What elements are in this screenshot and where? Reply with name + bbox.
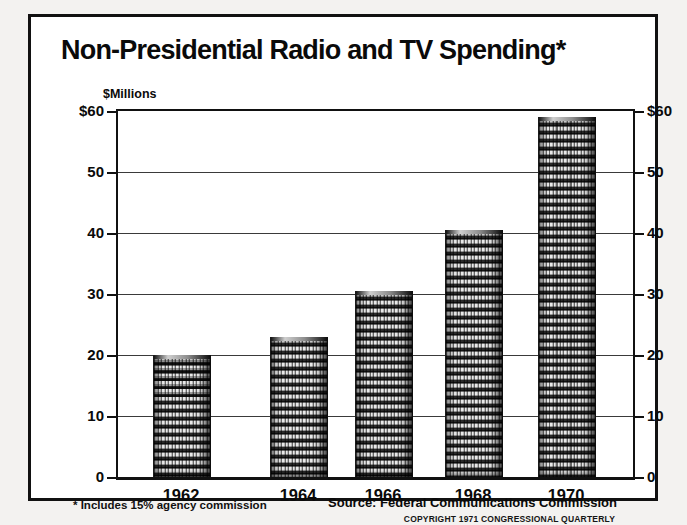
y-axis-tick-label: 10 bbox=[647, 408, 664, 423]
y-axis-tick bbox=[635, 477, 644, 479]
x-axis-label-1964: 1964 bbox=[280, 486, 317, 505]
bar-1962 bbox=[153, 355, 211, 477]
y-axis-unit-label: $Millions bbox=[103, 87, 156, 101]
plot-area: 0010102020303040405050$60$60196219641966… bbox=[116, 109, 635, 480]
y-axis-tick-label: 10 bbox=[87, 408, 104, 423]
y-axis-tick bbox=[107, 477, 116, 479]
y-axis-tick-label: 0 bbox=[96, 469, 104, 484]
y-axis-tick bbox=[635, 111, 644, 113]
y-axis-tick bbox=[635, 294, 644, 296]
title-text: Non-Presidential Radio and TV Spending* bbox=[61, 35, 565, 65]
y-axis-tick bbox=[107, 294, 116, 296]
y-axis-tick bbox=[107, 416, 116, 418]
y-axis-tick bbox=[107, 355, 116, 357]
y-axis-tick bbox=[635, 355, 644, 357]
y-axis-tick-label: 30 bbox=[87, 286, 104, 301]
y-axis-tick-label: 20 bbox=[647, 347, 664, 362]
page-title: Non-Presidential Radio and TV Spending* bbox=[61, 35, 565, 66]
bar-1970 bbox=[538, 117, 596, 477]
y-axis-tick-label: 40 bbox=[647, 225, 664, 240]
y-axis-tick-label: 30 bbox=[647, 286, 664, 301]
y-axis-tick bbox=[635, 416, 644, 418]
y-axis-tick-label: $60 bbox=[79, 103, 104, 118]
y-axis-tick-label: 50 bbox=[647, 164, 664, 179]
y-axis-tick bbox=[635, 233, 644, 235]
copyright-label: COPYRIGHT 1971 CONGRESSIONAL QUARTERLY bbox=[404, 514, 615, 524]
y-axis-tick-label: 0 bbox=[647, 469, 655, 484]
bar-1964 bbox=[270, 337, 328, 477]
source-label: Source: Federal Communications Commissio… bbox=[328, 495, 617, 510]
y-axis-tick bbox=[107, 233, 116, 235]
y-axis-tick-label: 40 bbox=[87, 225, 104, 240]
y-axis-tick bbox=[107, 172, 116, 174]
y-axis-tick bbox=[107, 111, 116, 113]
footnote: * Includes 15% agency commission bbox=[73, 499, 267, 511]
bar-1968 bbox=[445, 230, 503, 477]
y-axis-tick-label: $60 bbox=[647, 103, 672, 118]
chart-frame: Non-Presidential Radio and TV Spending* … bbox=[28, 14, 658, 501]
y-axis-tick-label: 50 bbox=[87, 164, 104, 179]
y-axis-tick bbox=[635, 172, 644, 174]
bar-1966 bbox=[355, 291, 413, 477]
y-axis-tick-label: 20 bbox=[87, 347, 104, 362]
